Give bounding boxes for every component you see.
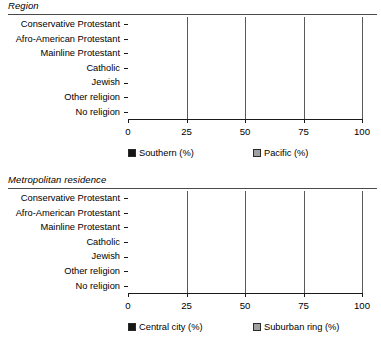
legend-label: Southern (%) [139, 148, 194, 158]
y-tick [124, 68, 128, 69]
panel-metro: Metropolitan residence Conservative Prot… [0, 174, 381, 350]
category-label: Other religion [0, 90, 124, 105]
y-tick [124, 198, 128, 199]
x-tick-label: 100 [354, 300, 370, 311]
x-tick-mark [304, 119, 305, 123]
x-tick-mark [304, 293, 305, 297]
x-tick-label: 25 [181, 300, 192, 311]
x-tick-mark [128, 119, 129, 123]
legend-item[interactable]: Central city (%) [128, 322, 203, 332]
legend-swatch-primary-icon [128, 323, 136, 331]
y-tick [124, 227, 128, 228]
panel-region-category-labels: Conservative ProtestantAfro-American Pro… [0, 17, 124, 119]
gridline [362, 191, 363, 293]
x-tick-label: 100 [354, 126, 370, 137]
x-tick-label: 25 [181, 126, 192, 137]
gridline [245, 191, 246, 293]
x-tick-mark [245, 293, 246, 297]
panel-metro-category-labels: Conservative ProtestantAfro-American Pro… [0, 191, 124, 293]
panel-metro-plot: 0255075100 [128, 191, 362, 301]
legend-swatch-primary-icon [128, 149, 136, 157]
legend-item[interactable]: Pacific (%) [253, 148, 308, 158]
gridline [187, 191, 188, 293]
y-tick [124, 39, 128, 40]
panel-region-title-rule [8, 14, 377, 15]
category-label: Other religion [0, 264, 124, 279]
x-tick-mark [245, 119, 246, 123]
category-label: Jewish [0, 75, 124, 90]
y-tick [124, 112, 128, 113]
gridline [245, 17, 246, 119]
category-label: No religion [0, 279, 124, 294]
legend-item[interactable]: Suburban ring (%) [253, 322, 339, 332]
y-tick [124, 242, 128, 243]
category-label: Afro-American Protestant [0, 206, 124, 221]
legend-label: Pacific (%) [264, 148, 308, 158]
panel-region: Region Conservative ProtestantAfro-Ameri… [0, 0, 381, 174]
y-tick [124, 271, 128, 272]
x-tick-label: 75 [298, 126, 309, 137]
category-label: Conservative Protestant [0, 17, 124, 32]
gridline [304, 17, 305, 119]
category-label: No religion [0, 105, 124, 120]
panel-metro-title-rule [8, 188, 377, 189]
y-tick [124, 257, 128, 258]
y-tick [124, 53, 128, 54]
x-tick-label: 75 [298, 300, 309, 311]
x-tick-mark [187, 293, 188, 297]
legend-item[interactable]: Southern (%) [128, 148, 194, 158]
x-tick-label: 0 [125, 300, 130, 311]
category-label: Jewish [0, 249, 124, 264]
x-tick-mark [128, 293, 129, 297]
legend-label: Central city (%) [139, 322, 203, 332]
x-tick-mark [362, 119, 363, 123]
x-tick-label: 0 [125, 126, 130, 137]
x-tick-label: 50 [240, 126, 251, 137]
category-label: Mainline Protestant [0, 46, 124, 61]
y-tick [124, 213, 128, 214]
stacked-bar-figure: Region Conservative ProtestantAfro-Ameri… [0, 0, 381, 174]
x-tick-mark [187, 119, 188, 123]
gridline [187, 17, 188, 119]
category-label: Mainline Protestant [0, 220, 124, 235]
category-label: Afro-American Protestant [0, 32, 124, 47]
x-tick-label: 50 [240, 300, 251, 311]
legend-swatch-secondary-icon [253, 149, 261, 157]
category-label: Conservative Protestant [0, 191, 124, 206]
legend-label: Suburban ring (%) [264, 322, 339, 332]
x-tick-mark [362, 293, 363, 297]
panel-metro-title: Metropolitan residence [8, 174, 106, 185]
category-label: Catholic [0, 235, 124, 250]
y-tick [124, 83, 128, 84]
y-tick [124, 24, 128, 25]
gridline [362, 17, 363, 119]
panel-region-title: Region [8, 0, 39, 11]
y-tick [124, 97, 128, 98]
panel-region-plot: 0255075100 [128, 17, 362, 127]
legend-swatch-secondary-icon [253, 323, 261, 331]
y-tick [124, 286, 128, 287]
category-label: Catholic [0, 61, 124, 76]
gridline [304, 191, 305, 293]
